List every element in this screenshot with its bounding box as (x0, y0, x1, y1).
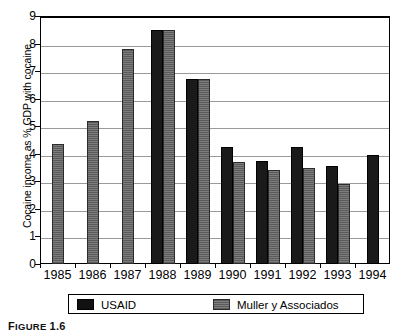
legend-label: Muller y Associados (237, 299, 339, 311)
x-tick-mark (215, 264, 216, 268)
bar-group (250, 16, 285, 264)
x-tick-label: 1985 (38, 268, 78, 283)
x-tick-label: 1987 (108, 268, 148, 283)
bar-usaid-1990 (221, 147, 233, 264)
y-tick-label: 3 (20, 176, 36, 186)
x-tick-mark (180, 264, 181, 268)
y-tick-mark (35, 126, 40, 127)
y-tick-label: 9 (20, 11, 36, 21)
x-tick-label: 1994 (353, 268, 393, 283)
figure-1-6: Cocaine income as % GDP with cocaine 012… (0, 0, 404, 336)
gray-hatch-swatch (213, 299, 230, 310)
y-tick-mark (35, 44, 40, 45)
bar-group (75, 16, 110, 264)
y-tick-mark (35, 154, 40, 155)
bar-usaid-1988 (151, 30, 163, 264)
bars-layer (40, 16, 390, 264)
bar-muller-1989 (198, 79, 210, 264)
bar-muller-1985 (52, 144, 64, 264)
y-tick-label: 8 (20, 39, 36, 49)
caption-number: 1.6 (50, 320, 66, 332)
y-tick-label: 0 (20, 259, 36, 269)
bar-group (145, 16, 180, 264)
x-tick-mark (250, 264, 251, 268)
x-tick-mark (285, 264, 286, 268)
x-tick-mark (145, 264, 146, 268)
x-tick-mark (110, 264, 111, 268)
bar-usaid-1994 (367, 155, 379, 264)
y-tick-mark (35, 209, 40, 210)
y-tick-mark (35, 181, 40, 182)
y-tick-mark (35, 16, 40, 17)
bar-usaid-1992 (291, 147, 303, 264)
x-axis-tick-labels: 1985198619871988198919901991199219931994 (40, 268, 390, 286)
bar-muller-1993 (338, 184, 350, 264)
bar-muller-1990 (233, 162, 245, 264)
y-tick-mark (35, 71, 40, 72)
y-tick-label: 5 (20, 121, 36, 131)
legend-label: USAID (101, 299, 136, 311)
black-swatch (77, 299, 94, 310)
legend-entry-muller: Muller y Associados (213, 297, 339, 312)
bar-usaid-1991 (256, 161, 268, 264)
y-tick-label: 1 (20, 231, 36, 241)
bar-muller-1988 (163, 30, 175, 264)
x-tick-label: 1989 (178, 268, 218, 283)
figure-caption: FIGURE 1.6 (8, 320, 66, 332)
bar-group (285, 16, 320, 264)
x-tick-label: 1991 (248, 268, 288, 283)
x-tick-label: 1992 (283, 268, 323, 283)
y-axis-tick-labels: 0123456789 (20, 16, 36, 264)
bar-usaid-1989 (186, 79, 198, 264)
bar-muller-1986 (87, 121, 99, 264)
bar-group (355, 16, 390, 264)
bar-group (320, 16, 355, 264)
bar-group (180, 16, 215, 264)
y-tick-label: 4 (20, 149, 36, 159)
y-tick-label: 2 (20, 204, 36, 214)
chart-legend: USAIDMuller y Associados (68, 294, 364, 314)
y-tick-mark (35, 99, 40, 100)
y-tick-mark (35, 236, 40, 237)
x-tick-mark (40, 264, 41, 268)
x-tick-label: 1993 (318, 268, 358, 283)
bar-muller-1991 (268, 170, 280, 264)
legend-entry-usaid: USAID (77, 297, 136, 312)
bar-muller-1987 (122, 49, 134, 264)
bar-group (110, 16, 145, 264)
bar-group (215, 16, 250, 264)
x-tick-label: 1990 (213, 268, 253, 283)
x-tick-label: 1988 (143, 268, 183, 283)
x-tick-mark (75, 264, 76, 268)
caption-lead-letter: F (8, 320, 15, 332)
x-tick-mark (320, 264, 321, 268)
x-tick-label: 1986 (73, 268, 113, 283)
bar-usaid-1993 (326, 166, 338, 264)
x-tick-mark (355, 264, 356, 268)
y-tick-label: 7 (20, 66, 36, 76)
bar-muller-1992 (303, 168, 315, 264)
caption-word: IGURE (15, 321, 47, 332)
y-tick-label: 6 (20, 94, 36, 104)
bar-group (40, 16, 75, 264)
